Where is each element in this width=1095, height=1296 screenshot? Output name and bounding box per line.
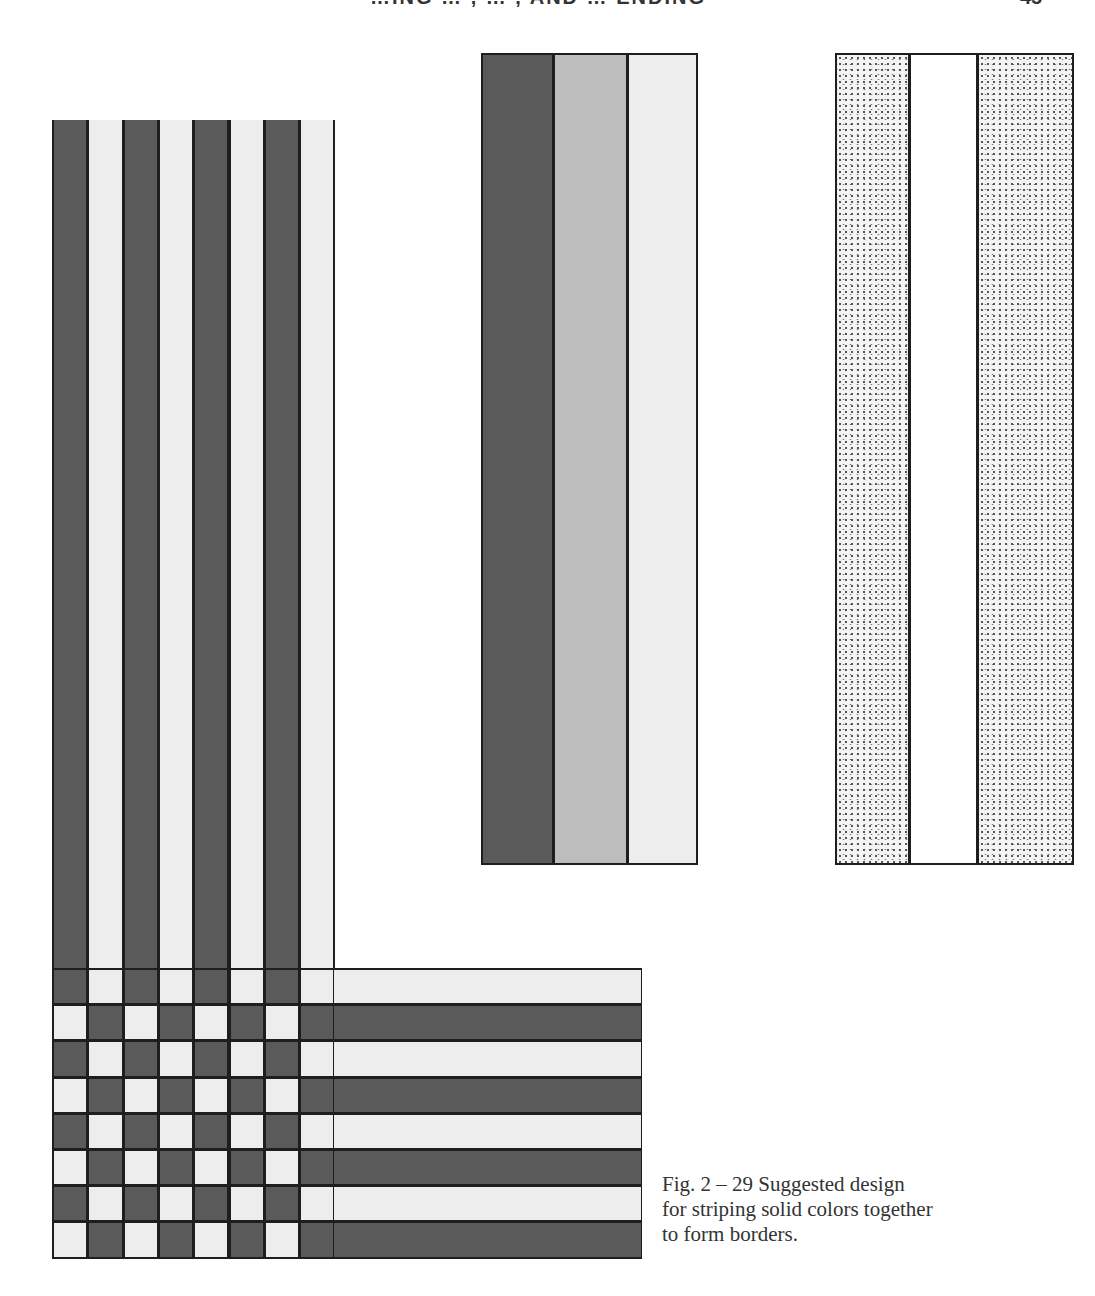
checker-cell	[193, 1040, 229, 1077]
vertical-stripe	[158, 120, 194, 968]
checker-cell	[299, 1040, 335, 1077]
horizontal-stripe	[334, 1004, 642, 1041]
stripe-white	[911, 55, 979, 863]
caption-line-1: Fig. 2 – 29 Suggested design	[662, 1172, 982, 1197]
horizontal-stripe	[334, 1185, 642, 1222]
checker-cell	[87, 1004, 123, 1041]
gradient-stripe-panel	[481, 53, 698, 865]
horizontal-stripe	[334, 1221, 642, 1258]
checker-cell	[264, 1004, 300, 1041]
horizontal-stripe	[334, 968, 642, 1005]
checker-cell	[229, 1221, 265, 1258]
checker-cell	[87, 968, 123, 1005]
checker-cell	[158, 1077, 194, 1114]
vertical-stripe	[87, 120, 123, 968]
checker-cell	[87, 1185, 123, 1222]
horizontal-stripe	[334, 1113, 642, 1150]
checker-cell	[123, 1077, 159, 1114]
checker-cell	[264, 968, 300, 1005]
page-number: 45	[1020, 0, 1042, 9]
checker-cell	[87, 1077, 123, 1114]
checker-cell	[193, 1004, 229, 1041]
checker-cell	[229, 1077, 265, 1114]
checker-cell	[229, 1004, 265, 1041]
checker-cell	[52, 1040, 88, 1077]
vertical-stripe	[193, 120, 229, 968]
checker-cell	[123, 1149, 159, 1186]
checker-cell	[158, 1221, 194, 1258]
checker-cell	[193, 1149, 229, 1186]
checker-cell	[264, 1221, 300, 1258]
checker-cell	[123, 1221, 159, 1258]
horizontal-stripe	[334, 1077, 642, 1114]
checker-cell	[158, 1040, 194, 1077]
checker-cell	[123, 1004, 159, 1041]
horizontal-stripe	[334, 1149, 642, 1186]
stripe-medium	[555, 55, 629, 863]
checker-cell	[123, 968, 159, 1005]
checker-cell	[264, 1077, 300, 1114]
vertical-stripe	[123, 120, 159, 968]
checker-cell	[52, 1004, 88, 1041]
checker-cell	[299, 1149, 335, 1186]
checker-cell	[87, 1040, 123, 1077]
vertical-stripe	[52, 120, 88, 968]
checker-cell	[158, 1004, 194, 1041]
checker-cell	[229, 1040, 265, 1077]
checker-cell	[264, 1113, 300, 1150]
checker-cell	[158, 1149, 194, 1186]
caption-line-3: to form borders.	[662, 1222, 982, 1247]
checker-cell	[229, 1149, 265, 1186]
stripe-dark	[483, 55, 555, 863]
figure-caption: Fig. 2 – 29 Suggested design for stripin…	[662, 1172, 982, 1247]
checker-cell	[158, 968, 194, 1005]
stripe-light	[629, 55, 696, 863]
checker-cell	[193, 1113, 229, 1150]
checker-cell	[193, 1221, 229, 1258]
checker-cell	[193, 1077, 229, 1114]
checker-cell	[52, 968, 88, 1005]
checker-cell	[299, 1077, 335, 1114]
checker-cell	[264, 1149, 300, 1186]
checker-cell	[229, 968, 265, 1005]
horizontal-stripe	[334, 1040, 642, 1077]
checker-cell	[264, 1185, 300, 1222]
running-header: …ING … , … , AND … ENDING	[370, 0, 706, 9]
vertical-stripe	[229, 120, 265, 968]
checker-cell	[52, 1113, 88, 1150]
checker-cell	[123, 1185, 159, 1222]
caption-line-2: for striping solid colors together	[662, 1197, 982, 1222]
checker-cell	[193, 1185, 229, 1222]
checker-cell	[299, 968, 335, 1005]
checker-cell	[87, 1113, 123, 1150]
textured-stripe-panel	[835, 53, 1074, 865]
checker-cell	[299, 1185, 335, 1222]
checker-cell	[229, 1113, 265, 1150]
checker-cell	[87, 1149, 123, 1186]
checker-cell	[264, 1040, 300, 1077]
checker-cell	[158, 1113, 194, 1150]
checker-cell	[52, 1149, 88, 1186]
checker-cell	[193, 968, 229, 1005]
checker-cell	[158, 1185, 194, 1222]
checker-cell	[52, 1221, 88, 1258]
vertical-stripe	[299, 120, 335, 968]
checker-cell	[87, 1221, 123, 1258]
stripe-speckled-left	[837, 55, 911, 863]
checker-cell	[229, 1185, 265, 1222]
checker-cell	[123, 1113, 159, 1150]
vertical-stripe	[264, 120, 300, 968]
checker-cell	[299, 1221, 335, 1258]
checker-cell	[299, 1004, 335, 1041]
stripe-speckled-right	[976, 55, 1072, 863]
checker-cell	[52, 1185, 88, 1222]
checker-cell	[52, 1077, 88, 1114]
checker-cell	[123, 1040, 159, 1077]
checker-cell	[299, 1113, 335, 1150]
